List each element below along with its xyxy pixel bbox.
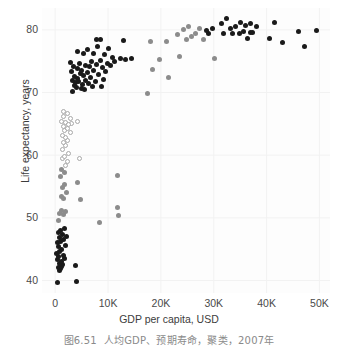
- data-point: [90, 84, 95, 89]
- caption-number: 图6.51: [64, 335, 97, 346]
- y-tick-label: 40: [12, 275, 38, 286]
- data-point: [221, 31, 226, 36]
- data-point: [233, 24, 238, 29]
- y-tick-label: 80: [12, 24, 38, 35]
- data-point: [272, 20, 277, 25]
- data-point: [75, 180, 80, 185]
- data-point: [99, 84, 104, 89]
- data-point: [68, 60, 73, 65]
- data-point: [100, 65, 105, 70]
- x-tick-label: 0: [52, 297, 58, 309]
- data-point: [59, 194, 64, 199]
- data-point: [166, 75, 171, 80]
- data-point: [238, 20, 243, 25]
- x-axis-title: GDP per capita, USD: [0, 313, 338, 325]
- data-point: [115, 205, 120, 210]
- data-point: [175, 32, 180, 37]
- data-point: [89, 59, 94, 64]
- data-point: [197, 26, 202, 31]
- data-point: [78, 197, 83, 202]
- data-point: [61, 124, 66, 129]
- data-point: [96, 72, 101, 77]
- figure-caption: 图6.51人均GDP、预期寿命，聚类，2007年: [0, 332, 338, 347]
- data-point: [157, 57, 162, 62]
- x-tick-label: 10K: [99, 297, 118, 309]
- data-point: [79, 86, 84, 91]
- x-tick-label: 20K: [152, 297, 171, 309]
- data-point: [101, 77, 106, 82]
- data-point: [228, 26, 233, 31]
- y-axis-title: Life expectancy, years: [19, 56, 31, 206]
- data-point: [115, 173, 120, 178]
- data-point: [58, 174, 63, 179]
- data-point: [73, 263, 78, 268]
- data-point: [97, 220, 102, 225]
- data-point: [103, 69, 108, 74]
- data-point: [184, 37, 189, 42]
- data-point: [105, 61, 110, 66]
- y-tick-label: 50: [12, 212, 38, 223]
- data-point: [250, 30, 255, 35]
- data-point: [64, 190, 69, 195]
- data-point: [177, 54, 182, 59]
- data-point: [145, 91, 150, 96]
- data-point: [63, 243, 68, 248]
- data-point: [267, 36, 272, 41]
- data-point: [61, 109, 66, 114]
- x-tick-label: 50K: [310, 297, 329, 309]
- data-point: [248, 21, 253, 26]
- x-tick-label: 40K: [257, 297, 276, 309]
- data-point: [75, 49, 80, 54]
- data-point: [296, 29, 301, 34]
- data-point: [129, 56, 134, 61]
- data-point: [66, 151, 71, 156]
- data-point: [116, 213, 121, 218]
- data-point: [77, 156, 82, 161]
- data-points-layer: [42, 8, 330, 293]
- data-point: [62, 226, 67, 231]
- data-point: [65, 159, 70, 164]
- data-point: [106, 46, 111, 51]
- data-point: [245, 36, 250, 41]
- x-tick-label: 30K: [204, 297, 223, 309]
- data-point: [241, 29, 246, 34]
- data-point: [201, 37, 206, 42]
- data-point: [98, 37, 103, 42]
- data-point: [280, 40, 285, 45]
- data-point: [148, 39, 153, 44]
- data-point: [118, 56, 123, 61]
- data-point: [83, 63, 88, 68]
- data-point: [150, 67, 155, 72]
- scatter-plot-area: [42, 8, 330, 293]
- x-axis-ticks: 010K20K30K40K50K: [0, 297, 338, 311]
- data-point: [254, 24, 259, 29]
- data-point: [193, 31, 198, 36]
- data-point: [85, 70, 90, 75]
- data-point: [91, 51, 96, 56]
- data-point: [74, 279, 79, 284]
- data-point: [93, 79, 98, 84]
- data-point: [75, 119, 80, 124]
- data-point: [112, 59, 117, 64]
- data-point: [98, 58, 103, 63]
- data-point: [77, 61, 82, 66]
- data-point: [181, 27, 186, 32]
- data-point: [164, 39, 169, 44]
- data-point: [123, 57, 128, 62]
- data-point: [230, 31, 235, 36]
- data-point: [302, 44, 307, 49]
- data-point: [68, 130, 73, 135]
- data-point: [186, 24, 191, 29]
- data-point: [61, 253, 66, 258]
- data-point: [70, 89, 75, 94]
- data-point: [212, 56, 217, 61]
- data-point: [210, 26, 215, 31]
- data-point: [66, 122, 71, 127]
- data-point: [121, 38, 126, 43]
- data-point: [224, 16, 229, 21]
- data-point: [85, 47, 90, 52]
- caption-text: 人均GDP、预期寿命，聚类，2007年: [104, 335, 275, 346]
- data-point: [60, 133, 65, 138]
- data-point: [204, 28, 209, 33]
- figure-container: 4050607080 010K20K30K40K50K Life expecta…: [0, 0, 338, 349]
